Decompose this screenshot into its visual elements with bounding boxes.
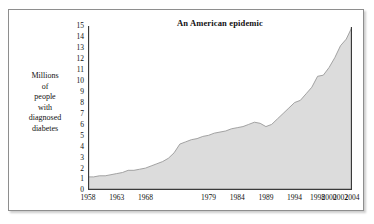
y-tick-label: 9 xyxy=(68,88,84,96)
y-tick-label: 11 xyxy=(68,66,84,74)
y-tick-label: 2 xyxy=(68,165,84,173)
y-tick-label: 12 xyxy=(68,55,84,63)
y-tick-label: 1 xyxy=(68,175,84,183)
plot-area xyxy=(88,26,352,190)
y-tick-label: 6 xyxy=(68,121,84,129)
x-tick-label: 2004 xyxy=(335,193,369,202)
y-tick-label: 7 xyxy=(68,110,84,118)
chart-figure: An American epidemic Millions of people … xyxy=(0,0,374,224)
area-series-fill xyxy=(88,27,352,190)
y-tick-label: 5 xyxy=(68,132,84,140)
y-tick-label: 4 xyxy=(68,143,84,151)
x-axis-ticks: 1958196319681979198419891994199820002002… xyxy=(88,193,352,207)
area-chart-svg xyxy=(88,26,352,190)
y-tick-label: 3 xyxy=(68,154,84,162)
y-tick-label: 13 xyxy=(68,44,84,52)
y-tick-label: 14 xyxy=(68,33,84,41)
y-tick-label: 8 xyxy=(68,99,84,107)
y-tick-label: 15 xyxy=(68,22,84,30)
y-axis-ticks: 0123456789101112131415 xyxy=(66,26,84,190)
x-tick-label: 1968 xyxy=(128,193,162,202)
y-tick-label: 10 xyxy=(68,77,84,85)
